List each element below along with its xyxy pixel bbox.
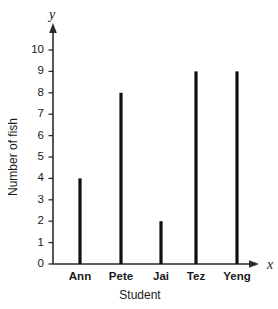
y-tick-label: 0: [38, 257, 44, 269]
y-axis-ticks: 0 1 2 3 4 5 6 7 8 9: [31, 43, 53, 269]
chart-svg: 0 1 2 3 4 5 6 7 8 9: [0, 0, 278, 309]
x-tick-label-tez: Tez: [187, 270, 206, 282]
y-axis-variable-name: y: [47, 7, 56, 22]
x-tick-label-yeng: Yeng: [223, 270, 250, 282]
x-axis-arrowhead: [249, 260, 259, 268]
y-axis-title: Number of fish: [6, 118, 20, 196]
y-axis-arrowhead: [49, 23, 57, 33]
y-tick-label: 10: [31, 43, 44, 55]
x-axis-variable-name: x: [266, 257, 274, 272]
x-tick-label-pete: Pete: [109, 270, 133, 282]
x-axis-title: Student: [119, 288, 161, 302]
y-tick-label: 2: [38, 214, 44, 226]
y-tick-label: 7: [38, 107, 44, 119]
y-tick-label: 8: [38, 86, 44, 98]
y-tick-label: 9: [38, 64, 44, 76]
y-tick-label: 6: [38, 129, 44, 141]
x-axis-ticks: Ann Pete Jai Tez Yeng: [69, 270, 251, 282]
x-tick-label-ann: Ann: [69, 270, 91, 282]
y-tick-label: 5: [38, 150, 44, 162]
y-tick-label: 4: [38, 171, 45, 183]
y-tick-label: 1: [38, 236, 44, 248]
bars: [80, 71, 237, 264]
x-tick-label-jai: Jai: [153, 270, 169, 282]
chart-figure: Number the total number smart the bot 0 …: [0, 0, 278, 309]
y-tick-label: 3: [38, 193, 44, 205]
bar-chart-plot: 0 1 2 3 4 5 6 7 8 9: [0, 0, 278, 309]
